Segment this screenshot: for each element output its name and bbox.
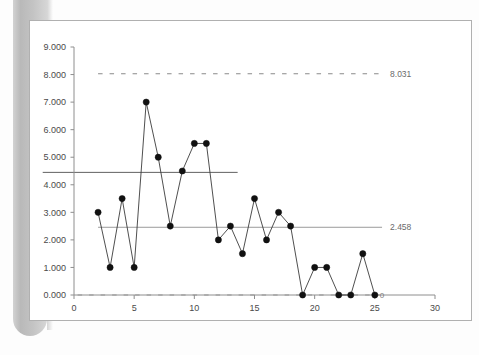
data-point-marker[interactable] — [143, 99, 149, 105]
data-point-marker[interactable] — [348, 292, 354, 298]
data-point-marker[interactable] — [203, 140, 209, 146]
data-point-marker[interactable] — [251, 195, 257, 201]
data-point-marker[interactable] — [95, 209, 101, 215]
y-axis-tick-label: 3.000 — [43, 208, 66, 218]
x-axis-tick-label: 30 — [430, 303, 440, 313]
x-axis-tick-label: 5 — [132, 303, 137, 313]
data-point-marker[interactable] — [275, 209, 281, 215]
y-axis-tick-label: 6.000 — [43, 125, 66, 135]
series-layer — [95, 99, 378, 298]
data-point-marker[interactable] — [155, 154, 161, 160]
axes-layer: 0.0001.0002.0003.0004.0005.0006.0007.000… — [43, 42, 440, 313]
data-point-marker[interactable] — [288, 223, 294, 229]
y-axis-tick-label: 4.000 — [43, 180, 66, 190]
y-axis-tick-label: 5.000 — [43, 152, 66, 162]
x-axis-tick-label: 20 — [310, 303, 320, 313]
data-point-marker[interactable] — [179, 168, 185, 174]
chart-canvas: 0.0001.0002.0003.0004.0005.0006.0007.000… — [0, 0, 479, 355]
y-axis-tick-label: 8.000 — [43, 70, 66, 80]
annotation-last-point-value-label: 0 — [380, 291, 385, 300]
y-axis-tick-label: 7.000 — [43, 97, 66, 107]
data-point-marker[interactable] — [372, 292, 378, 298]
data-point-marker[interactable] — [263, 237, 269, 243]
data-point-marker[interactable] — [300, 292, 306, 298]
y-axis-tick-label: 9.000 — [43, 42, 66, 52]
x-axis-tick-label: 10 — [189, 303, 199, 313]
y-axis-tick-label: 0.000 — [43, 290, 66, 300]
data-point-marker[interactable] — [360, 251, 366, 257]
data-point-marker[interactable] — [191, 140, 197, 146]
x-axis-tick-label: 25 — [370, 303, 380, 313]
data-point-marker[interactable] — [119, 195, 125, 201]
data-point-marker[interactable] — [107, 264, 113, 270]
line-chart: 0.0001.0002.0003.0004.0005.0006.0007.000… — [0, 0, 479, 355]
y-axis-tick-label: 1.000 — [43, 263, 66, 273]
x-axis-tick-label: 15 — [249, 303, 259, 313]
data-point-marker[interactable] — [324, 264, 330, 270]
reference-line-label-upper-dashed-limit: 8.031 — [390, 69, 412, 79]
y-axis-tick-label: 2.000 — [43, 235, 66, 245]
reference-lines-layer — [43, 74, 382, 295]
data-point-marker[interactable] — [227, 223, 233, 229]
data-series-line — [98, 102, 375, 295]
data-point-marker[interactable] — [336, 292, 342, 298]
data-point-marker[interactable] — [131, 264, 137, 270]
chart-screenshot: 0.0001.0002.0003.0004.0005.0006.0007.000… — [0, 0, 479, 355]
labels-layer: 8.0312.4580 — [380, 69, 412, 300]
data-point-marker[interactable] — [312, 264, 318, 270]
x-axis-tick-label: 0 — [71, 303, 76, 313]
reference-line-label-lower-solid-mean: 2.458 — [390, 222, 412, 232]
data-point-marker[interactable] — [215, 237, 221, 243]
data-point-marker[interactable] — [239, 251, 245, 257]
data-point-marker[interactable] — [167, 223, 173, 229]
